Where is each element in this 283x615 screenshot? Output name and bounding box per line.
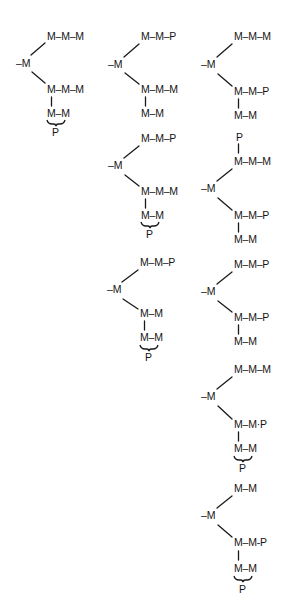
bond-line	[125, 175, 139, 186]
bottom-sub-chain-label: M–M	[140, 332, 163, 343]
top-arm-label: M–M–M	[234, 156, 271, 167]
bottom-sub-chain-label: M–M	[234, 563, 257, 574]
bond-line	[217, 496, 232, 508]
bottom-sub-chain-label: M–M	[234, 443, 257, 454]
top-arm-label: M–M–P	[141, 31, 176, 42]
bond-line	[217, 44, 232, 57]
top-pendant-p-label: P	[236, 132, 243, 143]
top-arm-label: M–M	[234, 483, 257, 494]
top-arm-label: M–M–M	[234, 364, 271, 375]
bottom-arm-label: M–M–P	[234, 312, 269, 323]
brace-p-label: P	[239, 584, 246, 595]
branch-label: –M	[108, 59, 122, 70]
bottom-sub-chain-label: M–M	[141, 210, 164, 221]
branch-label: –M	[201, 59, 215, 70]
bottom-arm-label: M–M–P	[234, 210, 269, 221]
top-arm-label: M–M–M	[47, 31, 84, 42]
bond-line	[217, 169, 232, 181]
branch-label: –M	[201, 510, 215, 521]
branch-label: –M	[107, 284, 121, 295]
bottom-sub-chain-label: M–M	[47, 108, 70, 119]
brace-p-label: P	[145, 352, 152, 363]
bond-line	[31, 43, 45, 55]
top-arm-label: M–M–M	[234, 31, 271, 42]
brace-p-label: P	[239, 463, 246, 474]
bond-line	[218, 301, 232, 312]
oligomer-structures-diagram: M–M–M –M M–M–M M–M P M–M–P –M M–M–M M–M …	[0, 0, 283, 615]
bottom-arm-label: M–M–P	[234, 86, 269, 97]
top-arm-label: M–M–P	[140, 257, 175, 268]
bond-line	[125, 73, 139, 84]
bottom-arm-label: M–M·P	[234, 419, 267, 430]
bottom-sub-chain-label: M–M	[141, 108, 164, 119]
bottom-sub-chain-label: M–M	[234, 110, 257, 121]
bond-line	[124, 44, 139, 57]
bond-line	[218, 525, 232, 537]
bond-line	[217, 272, 232, 284]
brace-p-label: P	[52, 127, 59, 138]
branch-label: –M	[201, 286, 215, 297]
branch-label: –M	[16, 58, 30, 69]
bond-line	[123, 299, 138, 309]
brace-p-label: P	[146, 229, 153, 240]
bond-line	[218, 406, 232, 419]
bond-line	[218, 74, 232, 86]
bond-line	[218, 198, 232, 210]
bond-line	[122, 270, 138, 282]
bottom-arm-label: M–M-P	[234, 537, 267, 548]
bottom-arm-label: M–M–M	[47, 84, 84, 95]
bottom-sub-chain-label: M–M	[234, 234, 257, 245]
bottom-arm-label: M–M–M	[141, 84, 178, 95]
top-arm-label: M–M–P	[141, 133, 176, 144]
branch-label: –M	[201, 391, 215, 402]
brace-shape	[234, 576, 252, 582]
branch-label: –M	[108, 160, 122, 171]
bond-line	[32, 72, 45, 83]
bottom-sub-chain-label: M–M	[234, 336, 257, 347]
branch-label: –M	[201, 183, 215, 194]
top-arm-label: M–M–P	[234, 259, 269, 270]
bottom-arm-label: M–M	[140, 308, 163, 319]
bottom-arm-label: M–M–M	[141, 186, 178, 197]
bond-line	[217, 377, 232, 389]
bond-line	[124, 146, 139, 158]
